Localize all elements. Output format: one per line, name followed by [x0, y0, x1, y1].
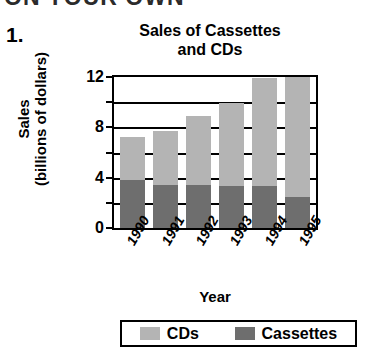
bar-segment-cds: [153, 131, 178, 185]
chart-title-line-1: Sales of Cassettes: [92, 22, 328, 41]
y-tick-label-4: 4: [78, 170, 104, 186]
x-axis-label: Year: [112, 288, 318, 305]
legend-swatch-cassettes: [235, 327, 255, 340]
bar-1995: [285, 77, 310, 228]
cut-off-header: ON YOUR OWN: [0, 0, 373, 14]
legend-label-cds: CDs: [167, 326, 199, 342]
y-tick-label-12: 12: [78, 69, 104, 85]
legend-item-cds: CDs: [140, 326, 199, 342]
bar-segment-cds: [252, 78, 277, 186]
legend-item-cassettes: Cassettes: [235, 326, 338, 342]
cut-off-header-text: ON YOUR OWN: [4, 0, 185, 11]
bar-segment-cds: [219, 103, 244, 186]
plot-area: [112, 75, 318, 230]
x-axis-ticks: 199019911992199319941995: [112, 230, 318, 282]
bar-1992: [186, 116, 211, 228]
bar-segment-cds: [120, 137, 145, 180]
y-axis-label: Sales (billions of dollars): [15, 49, 59, 189]
y-axis-label-line-2: (billions of dollars): [32, 49, 49, 189]
problem-number: 1.: [6, 24, 24, 45]
legend-swatch-cds: [140, 327, 160, 340]
y-axis-label-line-1: Sales: [15, 49, 32, 189]
chart-title-line-2: and CDs: [92, 41, 328, 60]
bar-segment-cds: [285, 77, 310, 197]
y-tick-label-0: 0: [78, 220, 104, 236]
bar-1994: [252, 78, 277, 228]
bar-group: [114, 77, 316, 228]
bar-1993: [219, 103, 244, 228]
legend-label-cassettes: Cassettes: [262, 326, 338, 342]
bar-segment-cds: [186, 116, 211, 185]
chart-title: Sales of Cassettes and CDs: [92, 22, 328, 60]
chart-legend: CDsCassettes: [120, 320, 357, 347]
y-tick-label-8: 8: [78, 119, 104, 135]
